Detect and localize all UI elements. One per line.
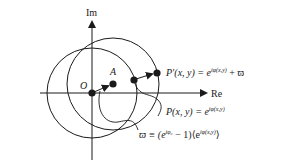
origin-label: O	[80, 80, 87, 91]
p-prime-tail: + ϖ	[227, 67, 245, 78]
imaginary-axis-label: Im	[86, 7, 97, 18]
origin-point	[88, 89, 95, 96]
point-p	[130, 76, 137, 83]
varpi-tail: ⟩	[216, 129, 220, 140]
vector-o-to-a	[94, 86, 108, 92]
varpi-equation: ϖ ≡ (eiφ₀ − 1)⟨eiφ(x,y)⟩	[139, 129, 220, 141]
varpi-exponent-1: iφ₀	[166, 129, 173, 135]
p-equation: P(x, y) = eiφ(x,y)	[165, 106, 225, 118]
p-prime-exponent: iφ(x,y)	[211, 67, 227, 74]
p-lhs: P(x, y) = e	[165, 106, 209, 118]
point-a-label: A	[109, 66, 117, 77]
p-prime-equation: P′(x, y) = eiφ(x,y) + ϖ	[165, 67, 244, 79]
point-p-prime	[153, 69, 160, 76]
p-exponent: iφ(x,y)	[209, 106, 225, 113]
point-a	[109, 80, 116, 87]
varpi-mid: − 1)⟨e	[173, 129, 201, 141]
phase-diagram: Im Re O A P′(x, y) = eiφ(x,y) + ϖ P(x, y…	[0, 0, 281, 167]
varpi-lhs: ϖ ≡ (e	[139, 129, 166, 141]
vector-p-to-p-prime	[136, 74, 152, 79]
leader-curve-varpi	[99, 91, 138, 130]
p-prime-lhs: P′(x, y) = e	[165, 67, 212, 79]
real-axis-label: Re	[211, 88, 223, 99]
varpi-exponent-2: iφ(x,y)	[200, 129, 216, 136]
